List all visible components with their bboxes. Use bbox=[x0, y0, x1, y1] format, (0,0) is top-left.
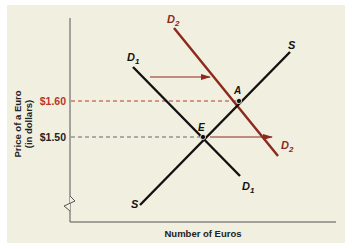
supply-demand-diagram: D1 D1 D2 D2 S S A E $1.60 $1.50 Price of… bbox=[0, 0, 352, 249]
x-axis-title: Number of Euros bbox=[164, 228, 241, 239]
svg-text:(in dollars): (in dollars) bbox=[23, 100, 34, 149]
label-d2-bottom: D2 bbox=[281, 139, 294, 154]
point-e-marker bbox=[200, 134, 205, 139]
supply-curve-s bbox=[140, 52, 290, 205]
y-axis-title: Price of a Euro (in dollars) bbox=[12, 90, 34, 157]
label-point-a: A bbox=[233, 85, 241, 96]
demand-curve-d1 bbox=[133, 67, 240, 176]
tick-label-1-60: $1.60 bbox=[40, 95, 66, 107]
point-a-marker bbox=[236, 98, 241, 103]
label-d2-top: D2 bbox=[167, 13, 180, 28]
label-s-bottom: S bbox=[131, 198, 139, 210]
label-d1-bottom: D1 bbox=[242, 180, 255, 195]
svg-text:Price of a Euro: Price of a Euro bbox=[12, 90, 23, 157]
label-s-top: S bbox=[288, 39, 296, 51]
tick-label-1-50: $1.50 bbox=[40, 131, 66, 143]
label-point-e: E bbox=[198, 122, 205, 133]
label-d1-top: D1 bbox=[127, 51, 140, 66]
